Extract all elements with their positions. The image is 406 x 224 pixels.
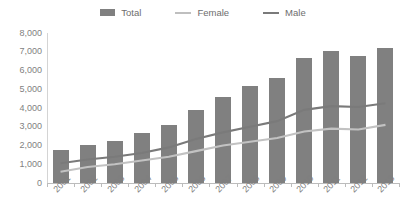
y-axis-tick-label: 6,000 [0,66,42,75]
x-axis-tickmark [237,183,238,187]
legend-label-total: Total [121,8,141,18]
y-axis-tick-label: 0 [0,179,42,188]
legend-swatch-male-icon [263,12,279,14]
x-axis-tickmark [209,183,210,187]
legend-label-female: Female [197,8,229,18]
chart-legend: Total Female Male [0,8,406,18]
legend-item-female[interactable]: Female [175,8,229,18]
y-axis-tick-label: 5,000 [0,85,42,94]
x-axis-tickmark [128,183,129,187]
male-line-series [61,103,386,163]
x-axis-tickmark [155,183,156,187]
x-axis-tickmark [291,183,292,187]
y-axis-tick-label: 4,000 [0,104,42,113]
x-axis-tickmark [182,183,183,187]
x-axis-tickmark [399,183,400,187]
legend-swatch-female-icon [175,12,191,14]
legend-swatch-total-icon [100,9,115,16]
y-axis-tick-label: 2,000 [0,141,42,150]
x-axis-labels: 2001200220032004200520062007200820092010… [47,188,400,224]
x-axis-tickmark [264,183,265,187]
chart-container: Total Female Male 8,0007,0006,0005,0004,… [0,0,406,224]
lines-layer [47,33,399,183]
y-axis-tick-label: 3,000 [0,122,42,131]
x-axis-tickmark [345,183,346,187]
x-axis-tickmark [47,183,48,187]
legend-label-male: Male [285,8,306,18]
legend-item-total[interactable]: Total [100,8,141,18]
legend-item-male[interactable]: Male [263,8,306,18]
x-axis-tickmark [318,183,319,187]
x-axis-tickmark [74,183,75,187]
plot-area [47,33,399,183]
x-axis-tickmark [101,183,102,187]
y-axis-tick-label: 8,000 [0,29,42,38]
x-axis-tickmark [372,183,373,187]
y-axis-tick-label: 7,000 [0,47,42,56]
y-axis-tick-label: 1,000 [0,160,42,169]
